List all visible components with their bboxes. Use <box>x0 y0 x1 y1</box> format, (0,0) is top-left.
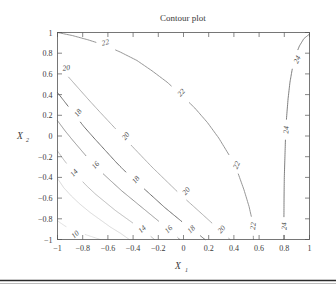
x-axis-title-text: X <box>174 261 182 271</box>
x-tick-label: 0.4 <box>229 244 239 253</box>
y-tick-label: 1 <box>49 29 53 38</box>
x-tick-label: −1 <box>53 244 62 253</box>
y-tick-label: 0.8 <box>43 49 53 58</box>
x-tick-label: 0.8 <box>279 244 289 253</box>
y-tick-label: 0.6 <box>43 70 53 79</box>
y-tick-label: 0.4 <box>43 91 53 100</box>
x-tick-label: −0.4 <box>126 244 141 253</box>
x-tick-label: 1 <box>308 244 312 253</box>
y-tick-label: 0.2 <box>43 111 53 120</box>
y-axis-title-text: X <box>16 131 24 141</box>
x-tick-label: 0.2 <box>204 244 214 253</box>
y-tick-label: −0.4 <box>38 173 53 182</box>
x-axis-title-subscript: 1 <box>185 267 188 273</box>
contour-plot-canvas: Contour plot −1−0.8−0.6−0.4−0.200.20.40.… <box>0 0 336 289</box>
x-tick-label: −0.8 <box>75 244 90 253</box>
y-tick-label: −0.8 <box>38 215 53 224</box>
y-tick-label: −0.2 <box>38 153 53 162</box>
x-tick-label: 0 <box>182 244 186 253</box>
contour-label-24: 24 <box>279 222 288 230</box>
y-tick-label: 0 <box>49 132 53 141</box>
contour-label-24: 24 <box>281 125 291 133</box>
contour-label-20: 20 <box>62 63 71 73</box>
chart-title: Contour plot <box>160 13 206 23</box>
contour-label-22: 22 <box>248 222 258 231</box>
y-tick-label: −0.6 <box>38 194 53 203</box>
x-tick-label: −0.2 <box>151 244 166 253</box>
contour-plot-figure: Contour plot −1−0.8−0.6−0.4−0.200.20.40.… <box>0 0 336 289</box>
y-axis-title-subscript: 2 <box>26 137 29 143</box>
x-tick-label: −0.6 <box>101 244 116 253</box>
x-tick-label: 0.6 <box>254 244 264 253</box>
y-tick-label: −1 <box>44 236 53 245</box>
